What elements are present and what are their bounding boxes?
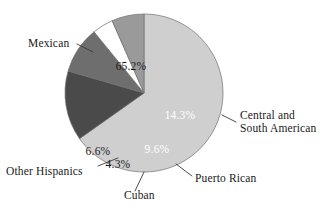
category-label-mexican: Mexican: [28, 37, 69, 49]
percent-label-mexican: 65.2%: [116, 60, 147, 72]
percent-label-puerto-rican: 9.6%: [145, 143, 170, 155]
leader-line-central-and-south-american: [222, 115, 236, 122]
category-label-central-and-south-american-line1: Central and: [240, 109, 295, 121]
percent-label-central-and-south-american: 14.3%: [165, 109, 196, 121]
percent-label-other-hispanics: 6.6%: [86, 145, 111, 157]
leader-line-puerto-rican: [176, 164, 192, 176]
percent-label-cuban: 4.3%: [106, 158, 131, 170]
category-label-central-and-south-american-line2: South American: [240, 122, 317, 134]
category-label-cuban: Cuban: [124, 189, 155, 201]
category-label-other-hispanics: Other Hispanics: [6, 165, 83, 178]
pie-chart-svg: 65.2% 14.3% 9.6% 4.3% 6.6% Mexican Centr…: [0, 0, 328, 210]
pie-chart-figure: 65.2% 14.3% 9.6% 4.3% 6.6% Mexican Centr…: [0, 0, 328, 210]
category-label-puerto-rican: Puerto Rican: [195, 172, 257, 184]
